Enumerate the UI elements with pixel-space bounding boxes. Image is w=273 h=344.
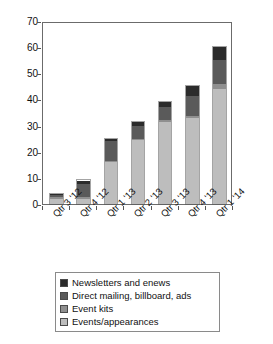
y-axis-tick-label: 50 <box>6 69 38 79</box>
y-axis-tick-mark <box>37 48 41 49</box>
y-axis-tick-label: 30 <box>6 122 38 132</box>
plot-wrapper: 010203040506070 <box>0 0 273 212</box>
legend-item: Direct mailing, billboard, ads <box>60 289 215 302</box>
legend-label: Direct mailing, billboard, ads <box>72 291 191 301</box>
bar-segment <box>213 60 225 84</box>
y-axis-tick-mark <box>37 74 41 75</box>
y-axis-tick-label: 70 <box>6 17 38 27</box>
bars-layer <box>43 23 231 204</box>
legend-label: Event kits <box>72 304 113 314</box>
legend-label: Events/appearances <box>72 317 159 327</box>
legend-swatch-icon <box>60 305 68 313</box>
plot-area <box>42 22 232 205</box>
legend-item: Event kits <box>60 302 215 315</box>
y-axis-tick-label: 10 <box>6 174 38 184</box>
y-axis-tick-mark <box>37 205 41 206</box>
chart-legend: Newsletters and enewsDirect mailing, bil… <box>55 272 220 332</box>
bar-stack <box>213 47 225 204</box>
bar-segment <box>213 47 225 60</box>
bar-stack <box>186 86 198 204</box>
y-axis-tick-label: 20 <box>6 148 38 158</box>
bar-segment <box>105 141 117 161</box>
legend-item: Events/appearances <box>60 315 215 328</box>
y-axis-tick-mark <box>37 153 41 154</box>
y-axis-tick-mark <box>37 22 41 23</box>
y-axis-tick-label: 40 <box>6 95 38 105</box>
bar-segment <box>213 89 225 204</box>
bar-segment <box>186 86 198 95</box>
y-axis-tick-label: 0 <box>6 200 38 210</box>
legend-item: Newsletters and enews <box>60 276 215 289</box>
y-axis-tick-mark <box>37 100 41 101</box>
bar-segment <box>186 96 198 117</box>
y-axis-tick-mark <box>37 179 41 180</box>
x-axis: Qtr 3 '12Qtr 4 '12Qtr 1 '13Qtr 2 '13Qtr … <box>42 206 232 262</box>
y-axis-tick-mark <box>37 127 41 128</box>
legend-swatch-icon <box>60 279 68 287</box>
bar-segment <box>159 107 171 120</box>
legend-label: Newsletters and enews <box>72 278 170 288</box>
legend-swatch-icon <box>60 318 68 326</box>
x-axis-tick-mark <box>42 206 43 210</box>
stacked-bar-chart: 010203040506070 Qtr 3 '12Qtr 4 '12Qtr 1 … <box>0 0 273 344</box>
bar-segment <box>105 162 117 204</box>
bar-segment <box>132 126 144 139</box>
legend-swatch-icon <box>60 292 68 300</box>
y-axis-tick-label: 60 <box>6 43 38 53</box>
y-axis: 010203040506070 <box>0 0 38 212</box>
